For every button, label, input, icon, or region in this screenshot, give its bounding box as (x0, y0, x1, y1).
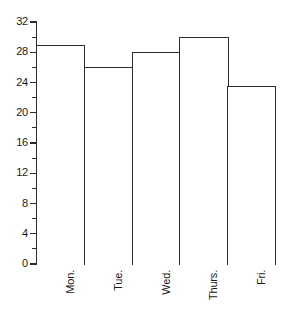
x-axis-category-labels: Mon.Tue.Wed.Thurs.Fri. (0, 264, 294, 318)
bar (84, 67, 133, 265)
y-axis-tick-label: 4 (22, 228, 28, 239)
y-axis-tick-label: 12 (16, 167, 28, 178)
plot-area (36, 22, 275, 264)
y-axis-tick-label: 28 (16, 46, 28, 57)
y-axis-tick-label: 8 (22, 198, 28, 209)
bar (179, 37, 228, 265)
bar (36, 45, 85, 266)
y-axis-tick-label: 16 (16, 137, 28, 148)
x-axis-category-label: Wed. (161, 270, 172, 295)
x-axis-category-label: Mon. (65, 270, 76, 294)
bar (132, 52, 181, 265)
x-axis-category-label: Thurs. (208, 270, 219, 300)
y-axis-tick-label: 32 (16, 16, 28, 27)
bar (227, 86, 276, 265)
bar-chart: 048121620242832 Mon.Tue.Wed.Thurs.Fri. (0, 0, 294, 318)
y-axis-tick-label: 24 (16, 77, 28, 88)
y-axis-tick-label: 20 (16, 107, 28, 118)
x-axis-category-label: Fri. (256, 270, 267, 285)
x-axis-category-label: Tue. (113, 270, 124, 291)
